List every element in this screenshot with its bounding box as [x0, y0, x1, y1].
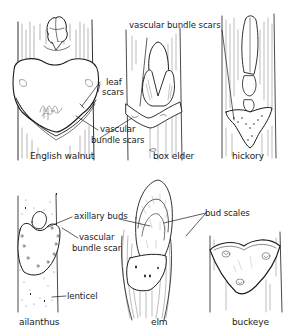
illustration-artwork [0, 0, 290, 327]
label-vascular-bundle-scar-line2: bundle scar [72, 244, 121, 254]
label-vascular-bundle-scars-boxelder: vascular bundle scars [129, 21, 221, 31]
label-vascular-bundle-scars-walnut-line1: vascular [100, 125, 135, 135]
label-axillary-buds: axillary buds [74, 212, 128, 222]
label-lenticel: lenticel [67, 292, 97, 302]
buckeye-drawing [210, 232, 282, 312]
leaf-scar-diagram: leaf scars vascular bundle scars English… [0, 0, 290, 327]
ailanthus-drawing [18, 193, 60, 312]
label-bud-scales: bud scales [205, 209, 250, 219]
caption-buckeye: buckeye [232, 318, 269, 327]
english-walnut-drawing [13, 17, 99, 160]
label-leaf-scars-line2: scars [102, 88, 124, 98]
label-vascular-bundle-scars-walnut-line2: bundle scars [91, 136, 145, 146]
label-vascular-bundle-scar-line1: vascular [79, 233, 114, 243]
caption-english-walnut: English walnut [30, 152, 94, 162]
caption-hickory: hickory [232, 152, 264, 162]
caption-ailanthus: ailanthus [19, 318, 59, 327]
elm-drawing [121, 180, 172, 320]
caption-elm: elm [151, 318, 168, 327]
hickory-drawing [222, 14, 276, 158]
caption-box-elder: box elder [153, 152, 194, 162]
